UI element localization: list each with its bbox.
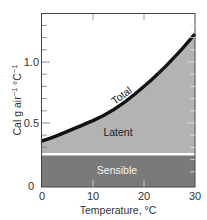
y-axis-label-sup1: −1 [10,88,19,97]
y-tick-label-1-0: 1.0 [24,56,39,68]
x-tick-label-20: 20 [138,190,150,202]
x-axis-label: Temperature, °C [80,204,157,216]
x-tick-label-30: 30 [189,190,201,202]
y-axis-label-main: Cal g air [11,96,23,136]
y-tick-label-0: 0 [28,180,34,192]
x-tick-label-0: 0 [39,190,45,202]
x-tick-label-10: 10 [87,190,99,202]
y-axis-label-sup2: −1 [10,65,19,74]
chart-svg: 0 0.5 1.0 0 10 20 30 Temperature, °C Cal… [0,0,207,220]
y-tick-label-0-5: 0.5 [24,117,39,129]
latent-label: Latent [103,126,132,138]
y-axis-label-unit: °C [11,73,23,88]
sensible-boundary-line [42,153,195,156]
sensible-label: Sensible [97,164,137,176]
x-ticks-top [93,14,144,20]
y-axis-label: Cal g air−1 °C−1 [10,65,23,136]
